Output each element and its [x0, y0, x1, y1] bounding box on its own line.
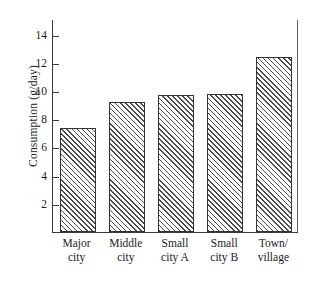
y-tick-label: 12 — [36, 58, 48, 70]
y-tick-mark — [53, 148, 59, 149]
x-axis-line — [52, 232, 298, 233]
bar-chart: Consumption (g/day) 1412108642 Major cit… — [0, 0, 315, 281]
bar — [60, 128, 96, 232]
y-tick-label: 8 — [41, 114, 47, 126]
right-axis-line — [297, 20, 298, 233]
y-tick-mark — [53, 177, 59, 178]
x-axis-label: Small city A — [150, 236, 199, 264]
x-axis-label: Town/ village — [249, 236, 298, 264]
y-tick-label: 10 — [36, 86, 48, 98]
x-axis-label: Small city B — [200, 236, 249, 264]
y-tick-label: 6 — [41, 143, 47, 155]
bar — [109, 102, 145, 232]
y-tick-mark — [53, 36, 59, 37]
y-tick-label: 2 — [41, 199, 47, 211]
y-tick-label: 4 — [41, 171, 47, 183]
y-tick-mark — [53, 205, 59, 206]
bar — [256, 57, 292, 232]
bar — [207, 94, 243, 232]
y-axis-line — [52, 20, 53, 233]
y-tick-mark — [53, 92, 59, 93]
plot-area: 1412108642 — [52, 20, 298, 233]
bar — [158, 95, 194, 232]
x-axis-label: Major city — [52, 236, 101, 264]
y-tick-label: 14 — [36, 30, 48, 42]
y-tick-mark — [53, 120, 59, 121]
y-tick-mark — [53, 64, 59, 65]
x-axis-label: Middle city — [101, 236, 150, 264]
